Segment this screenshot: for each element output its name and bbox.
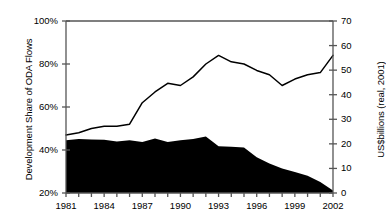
area-series-oda-flows bbox=[66, 136, 333, 193]
right-axis-tick-label: 20 bbox=[341, 138, 371, 149]
right-axis-tick-label: 30 bbox=[341, 113, 371, 124]
left-axis-tick-label: 40% bbox=[0, 144, 58, 155]
chart-figure: Development Share of ODA Flows US$billio… bbox=[0, 0, 386, 224]
left-axis-tick-label: 20% bbox=[0, 187, 58, 198]
left-axis-tick-label: 100% bbox=[0, 15, 58, 26]
left-axis-tick-label: 60% bbox=[0, 101, 58, 112]
right-axis-tick-label: 60 bbox=[341, 40, 371, 51]
line-series-halo bbox=[66, 55, 333, 135]
x-axis-tick-label: 2002 bbox=[311, 200, 355, 211]
right-axis-tick-label: 40 bbox=[341, 89, 371, 100]
right-axis-tick-label: 10 bbox=[341, 162, 371, 173]
left-axis-tick-label: 80% bbox=[0, 58, 58, 69]
right-axis-tick-label: 0 bbox=[341, 187, 371, 198]
line-series-development-share bbox=[66, 55, 333, 135]
right-axis-tick-label: 50 bbox=[341, 64, 371, 75]
right-axis-tick-label: 70 bbox=[341, 15, 371, 26]
